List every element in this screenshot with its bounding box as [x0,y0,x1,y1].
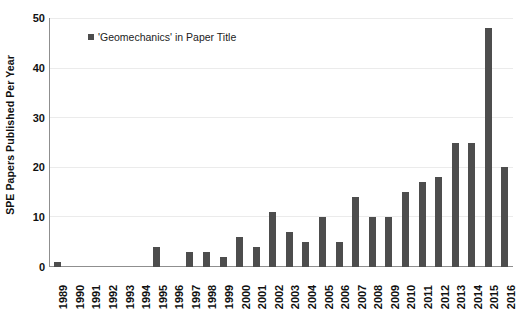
x-slot: 2007 [347,269,364,313]
bar-slot [265,18,282,267]
bar-slot [215,18,232,267]
y-tick-label: 10 [19,211,45,223]
bar-slot [148,18,165,267]
y-tick-label: 40 [19,62,45,74]
y-axis-tick-labels: 01020304050 [15,18,45,267]
x-slot: 2016 [497,269,514,313]
bars-layer [49,18,513,267]
bar-slot [364,18,381,267]
x-slot: 2002 [265,269,282,313]
x-slot: 2012 [430,269,447,313]
bar-slot [497,18,514,267]
y-tick-label: 30 [19,112,45,124]
bar [501,167,508,267]
bar-slot [66,18,83,267]
bar-slot [314,18,331,267]
bar-slot [447,18,464,267]
x-slot: 1989 [49,269,66,313]
bar-slot [463,18,480,267]
x-slot: 1995 [148,269,165,313]
x-slot: 1994 [132,269,149,313]
bar [153,247,160,267]
x-slot: 2003 [281,269,298,313]
x-slot: 2008 [364,269,381,313]
bar [419,182,426,267]
bar [253,247,260,267]
bar-slot [414,18,431,267]
x-slot: 1996 [165,269,182,313]
x-slot: 2005 [314,269,331,313]
y-tick-label: 0 [19,261,45,273]
bar-slot [49,18,66,267]
bar-slot [248,18,265,267]
x-slot: 2009 [381,269,398,313]
bar-slot [82,18,99,267]
bar [236,237,243,267]
x-slot: 2001 [248,269,265,313]
bar [452,143,459,268]
bar [269,212,276,267]
bar-slot [381,18,398,267]
bar [186,252,193,267]
bar-chart: SPE Papers Published Per Year 0102030405… [0,0,517,313]
y-tick-label: 20 [19,161,45,173]
bar-slot [165,18,182,267]
y-tick-label: 50 [19,12,45,24]
x-slot: 2014 [463,269,480,313]
bar-slot [331,18,348,267]
bar [402,192,409,267]
x-axis-tick-labels: 1989199019911992199319941995199619971998… [49,269,513,313]
bar-slot [397,18,414,267]
bar [54,262,61,267]
bar [302,242,309,267]
legend: 'Geomechanics' in Paper Title [88,31,236,43]
x-slot: 2006 [331,269,348,313]
x-slot: 2010 [397,269,414,313]
x-slot: 1998 [198,269,215,313]
bar [336,242,343,267]
bar [203,252,210,267]
bar-slot [198,18,215,267]
x-slot: 2011 [414,269,431,313]
legend-label: 'Geomechanics' in Paper Title [98,31,236,43]
bar [220,257,227,267]
bar-slot [231,18,248,267]
bar-slot [182,18,199,267]
bar-slot [430,18,447,267]
bar-slot [99,18,116,267]
x-slot: 1992 [99,269,116,313]
x-slot: 2015 [480,269,497,313]
bar-slot [281,18,298,267]
x-slot: 2013 [447,269,464,313]
bar-slot [480,18,497,267]
bar-slot [132,18,149,267]
x-slot: 1991 [82,269,99,313]
x-slot: 2000 [231,269,248,313]
legend-swatch-icon [88,34,94,40]
bar [369,217,376,267]
bar-slot [347,18,364,267]
x-slot: 1997 [182,269,199,313]
x-tick-label: 2016 [505,285,517,309]
bar-slot [298,18,315,267]
bar [468,143,475,268]
x-slot: 1993 [115,269,132,313]
bar [435,177,442,267]
bar [485,28,492,267]
bar [319,217,326,267]
bar [352,197,359,267]
bar-slot [115,18,132,267]
bar [385,217,392,267]
x-slot: 1990 [66,269,83,313]
bar [286,232,293,267]
x-slot: 2004 [298,269,315,313]
x-slot: 1999 [215,269,232,313]
